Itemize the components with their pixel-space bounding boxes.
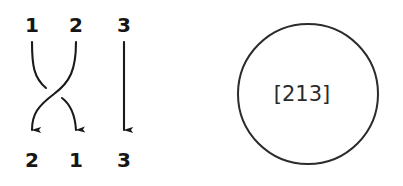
bottom-strand-label-3: 3 <box>111 150 137 170</box>
figure-root: 1 2 3 2 1 3 [213] <box>0 0 403 186</box>
permutation-circle-panel: [213] <box>201 0 403 186</box>
strand-1-upper-segment <box>32 42 46 88</box>
strand-2-to-1 <box>32 42 76 130</box>
permutation-label: [213] <box>201 84 403 105</box>
bottom-strand-label-2: 1 <box>63 150 89 170</box>
bottom-strand-label-1: 2 <box>19 150 45 170</box>
braid-diagram-panel: 1 2 3 2 1 3 <box>0 0 201 186</box>
top-strand-label-2: 2 <box>63 15 89 35</box>
top-strand-label-1: 1 <box>19 15 45 35</box>
top-strand-label-3: 3 <box>111 15 137 35</box>
strand-1-to-2 <box>32 42 76 130</box>
strand-2-path <box>32 42 76 130</box>
strand-1-lower-segment <box>62 98 76 130</box>
